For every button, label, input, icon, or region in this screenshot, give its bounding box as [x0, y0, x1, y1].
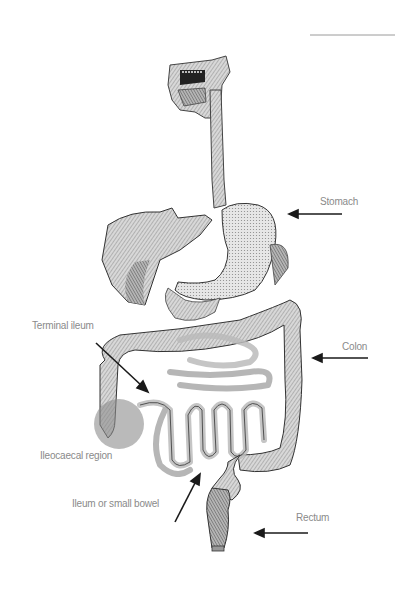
rectum — [207, 488, 230, 548]
label-ileocaecal-region: Ileocaecal region — [40, 450, 112, 461]
label-stomach: Stomach — [320, 196, 358, 207]
label-colon: Colon — [342, 341, 367, 352]
anatomy-illustration — [0, 0, 412, 594]
label-rectum: Rectum — [296, 512, 329, 523]
small-bowel-arrow — [175, 481, 196, 522]
digestive-system-diagram: Stomach Terminal ileum Colon Ileocaecal … — [0, 0, 412, 594]
esophagus — [210, 90, 226, 208]
anus — [212, 546, 224, 551]
label-ileum-small-bowel: Ileum or small bowel — [72, 498, 159, 509]
label-terminal-ileum: Terminal ileum — [32, 320, 94, 331]
ileocaecal-highlight — [94, 399, 144, 449]
